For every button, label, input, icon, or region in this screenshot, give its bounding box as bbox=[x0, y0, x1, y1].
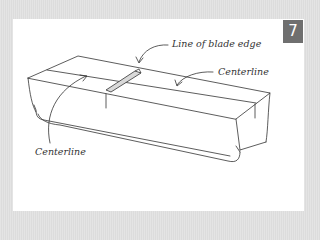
callout-arrows bbox=[49, 45, 214, 143]
label-centerline-left: Centerline bbox=[35, 146, 86, 157]
box-illustration bbox=[0, 0, 320, 223]
blade-edge-arrow-icon bbox=[139, 45, 168, 62]
label-blade-edge: Line of blade edge bbox=[172, 38, 261, 49]
label-centerline-right: Centerline bbox=[218, 66, 269, 77]
